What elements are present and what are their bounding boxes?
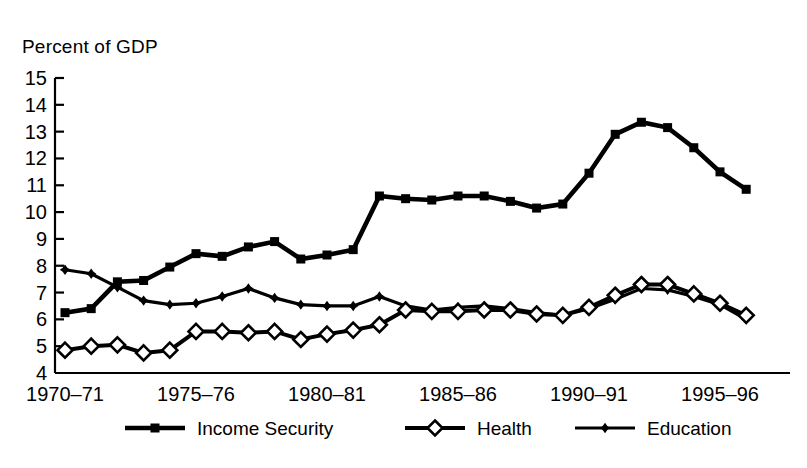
x-tick-label: 1995–96 [681,383,759,405]
marker-filled-square [61,308,70,317]
marker-filled-square [139,276,148,285]
marker-filled-square [716,167,725,176]
marker-open-diamond [84,339,99,354]
legend-label: Education [647,418,732,439]
marker-filled-square [558,200,567,209]
marker-filled-square [585,169,594,178]
marker-filled-square [480,192,489,201]
y-tick-label: 6 [36,308,47,330]
y-tick-label: 5 [36,335,47,357]
y-tick-label: 11 [26,174,47,196]
marker-small-star [191,298,201,308]
legend-item-education[interactable]: Education [575,418,732,439]
marker-small-star [600,423,610,433]
x-tick-label: 1990–91 [550,383,628,405]
marker-filled-square [87,304,96,313]
marker-small-star [296,299,306,309]
line-chart-svg: 456789101112131415 1970–711975–761980–81… [0,0,807,468]
marker-filled-square [296,255,305,264]
marker-open-diamond [320,327,335,342]
y-tick-label: 15 [25,67,47,89]
marker-open-diamond [503,302,518,317]
marker-open-diamond [215,324,230,339]
legend-label: Income Security [197,418,334,439]
marker-filled-square [218,252,227,261]
chart-container: Percent of GDP 456789101112131415 1970–7… [0,0,807,468]
marker-small-star [374,291,384,301]
y-tick-label: 7 [36,282,47,304]
marker-small-star [217,291,227,301]
marker-small-star [165,299,175,309]
marker-filled-square [611,130,620,139]
marker-filled-square [192,249,201,258]
y-tick-label: 9 [36,228,47,250]
marker-open-diamond [529,307,544,322]
x-tick-label: 1975–76 [157,383,235,405]
marker-filled-square [637,118,646,127]
y-tick-label: 13 [25,121,47,143]
marker-filled-square [532,204,541,213]
marker-open-diamond [293,332,308,347]
marker-filled-square [663,123,672,132]
legend-item-income-security[interactable]: Income Security [125,418,334,439]
y-tick-label: 8 [36,255,47,277]
marker-filled-square [151,424,160,433]
marker-small-star [269,293,279,303]
legend-label: Health [477,418,532,439]
marker-open-diamond [58,343,73,358]
marker-open-diamond [267,324,282,339]
marker-filled-square [375,192,384,201]
x-tick-label: 1970–71 [26,383,104,405]
x-axis: 1970–711975–761980–811985–861990–911995–… [26,373,790,405]
marker-filled-square [427,196,436,205]
marker-open-diamond [739,308,754,323]
marker-filled-square [349,245,358,254]
y-axis: 456789101112131415 [25,67,64,384]
marker-open-diamond [136,345,151,360]
y-tick-label: 4 [36,362,47,384]
chart-legend: Income SecurityHealthEducation [125,418,732,439]
legend-item-health[interactable]: Health [405,418,532,439]
marker-filled-square [113,277,122,286]
marker-filled-square [270,237,279,246]
marker-open-diamond [241,325,256,340]
y-tick-label: 12 [25,147,47,169]
marker-filled-square [742,185,751,194]
marker-small-star [348,301,358,311]
marker-open-diamond [110,337,125,352]
marker-filled-square [689,143,698,152]
x-tick-label: 1980–81 [288,383,366,405]
y-tick-label: 10 [25,201,47,223]
x-tick-label: 1985–86 [419,383,497,405]
marker-filled-square [401,194,410,203]
marker-open-diamond [555,308,570,323]
marker-open-diamond [346,323,361,338]
marker-open-diamond [582,300,597,315]
marker-filled-square [506,197,515,206]
marker-open-diamond [428,421,443,436]
marker-filled-square [323,251,332,260]
marker-open-diamond [372,317,387,332]
y-tick-label: 14 [25,94,47,116]
marker-filled-square [165,263,174,272]
marker-small-star [243,283,253,293]
marker-open-diamond [424,304,439,319]
marker-filled-square [244,242,253,251]
series-layer [58,118,754,361]
marker-filled-square [454,192,463,201]
marker-small-star [322,301,332,311]
